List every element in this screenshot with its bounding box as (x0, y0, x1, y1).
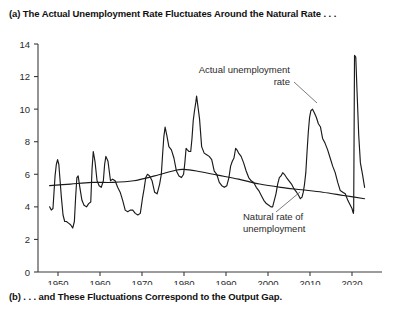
annotation-actual-line1: Actual unemployment (199, 64, 291, 75)
x-tick-label: 1960 (89, 278, 110, 285)
plot-area: 02468101214 1950196019701980199020002010… (0, 30, 397, 285)
line-chart-svg: 02468101214 1950196019701980199020002010… (0, 30, 397, 285)
x-tick-label: 2000 (257, 278, 278, 285)
annotation-actual-leader (294, 82, 317, 103)
x-tick-label: 2020 (341, 278, 362, 285)
x-tick-label: 1980 (173, 278, 194, 285)
y-tick-label: 14 (19, 39, 30, 50)
x-tick-group: 19501960197019801990200020102020 (47, 272, 362, 285)
annotation-natural-leader (276, 192, 300, 212)
y-tick-group: 02468101214 (19, 39, 38, 278)
page-title: (a) The Actual Unemployment Rate Fluctua… (9, 8, 389, 19)
y-tick-label: 8 (25, 136, 30, 147)
x-tick-label: 1990 (215, 278, 236, 285)
y-tick-label: 4 (25, 201, 30, 212)
annotation-actual: Actual unemployment rate (199, 64, 317, 103)
y-tick-label: 2 (25, 234, 30, 245)
y-tick-label: 0 (25, 267, 30, 278)
series-actual-rate-line (50, 55, 365, 228)
panel-b-caption: (b) . . . and These Fluctuations Corresp… (9, 291, 389, 302)
y-tick-label: 10 (19, 104, 30, 115)
annotation-natural-line1: Natural rate of (243, 211, 304, 222)
annotation-natural-line2: unemployment (243, 223, 306, 234)
y-tick-label: 6 (25, 169, 30, 180)
x-tick-label: 1950 (47, 278, 68, 285)
y-tick-label: 12 (19, 71, 30, 82)
annotation-actual-line2: rate (274, 76, 290, 87)
x-tick-label: 1970 (131, 278, 152, 285)
unemployment-rate-figure: (a) The Actual Unemployment Rate Fluctua… (0, 0, 397, 311)
x-tick-label: 2010 (299, 278, 320, 285)
